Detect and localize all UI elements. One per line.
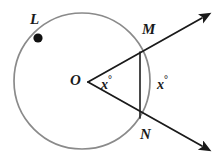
- degree-symbol-inner: °: [108, 74, 112, 85]
- angle-inner-variable: x: [101, 77, 108, 92]
- point-label-n: N: [140, 127, 151, 142]
- point-label-o: O: [70, 73, 81, 88]
- point-label-m: M: [142, 22, 155, 37]
- point-dot-l: [33, 33, 42, 42]
- angle-label-outer: x°: [157, 75, 168, 92]
- angle-label-inner: x°: [101, 75, 112, 92]
- geometry-figure: L M N O x° x°: [0, 0, 221, 163]
- angle-outer-variable: x: [157, 77, 164, 92]
- degree-symbol-outer: °: [164, 74, 168, 85]
- circle-outline: [14, 13, 150, 149]
- point-label-l: L: [30, 12, 39, 27]
